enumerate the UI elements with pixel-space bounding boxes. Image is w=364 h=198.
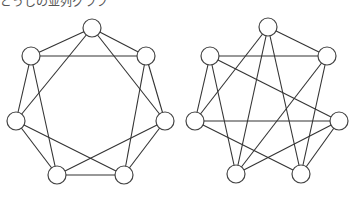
edge (16, 121, 124, 175)
node (156, 112, 174, 130)
node (137, 47, 155, 65)
edge (31, 28, 92, 56)
node (201, 47, 219, 65)
node (186, 112, 204, 130)
node (83, 19, 101, 37)
node (330, 112, 348, 130)
edge (92, 28, 165, 121)
node (48, 166, 66, 184)
node (227, 165, 245, 183)
node (259, 18, 277, 36)
edge (268, 27, 301, 174)
edge (268, 27, 327, 56)
edge (236, 121, 339, 174)
left-graph (7, 19, 174, 184)
edge (16, 28, 92, 121)
node (7, 112, 25, 130)
right-graph (186, 18, 348, 183)
node (292, 165, 310, 183)
edge (124, 121, 165, 175)
edge (146, 56, 165, 121)
graph-diagram (0, 0, 364, 198)
node (115, 166, 133, 184)
edge (57, 121, 165, 175)
edge (236, 27, 268, 174)
edge (195, 121, 301, 174)
node (22, 47, 40, 65)
node (318, 47, 336, 65)
